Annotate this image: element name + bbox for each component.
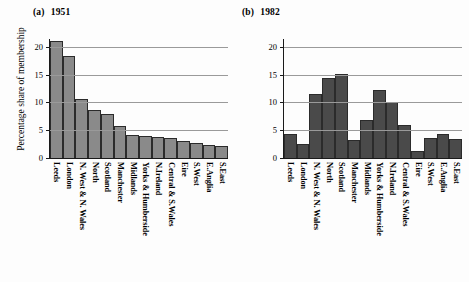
- x-axis-tick-label: Scotland: [103, 162, 112, 192]
- x-label-cell: Leeds: [284, 158, 297, 276]
- gridline-10: [284, 102, 462, 103]
- bar: [424, 138, 437, 158]
- bar: [322, 78, 335, 158]
- y-tick-10: [280, 102, 284, 103]
- x-axis-tick-label: Eire: [413, 162, 422, 177]
- bar-group-1982: [284, 39, 462, 158]
- y-tick-10: [46, 102, 50, 103]
- x-label-cell: Eire: [411, 158, 424, 276]
- figure-root: (a)1951 Percentage share of membership L…: [0, 0, 469, 282]
- x-axis-tick-label: E.Anglia: [438, 162, 447, 192]
- bar: [437, 134, 450, 158]
- bar: [190, 143, 203, 158]
- gridline-5: [50, 130, 228, 131]
- y-tick-0: [46, 158, 50, 159]
- x-label-cell: London: [297, 158, 310, 276]
- panel-year-a: 1951: [51, 7, 71, 17]
- x-axis-tick-label: N.Ireland: [388, 162, 397, 195]
- x-axis-tick-label: London: [299, 162, 308, 189]
- y-tick-label-0: 0: [39, 153, 43, 163]
- x-axis-tick-label: Eire: [179, 162, 188, 177]
- bar: [373, 90, 386, 158]
- y-tick-15: [46, 75, 50, 76]
- y-tick-label-15: 15: [35, 70, 44, 80]
- x-label-cell: S.West: [424, 158, 437, 276]
- bar: [88, 110, 101, 158]
- y-axis-label: Percentage share of membership: [16, 14, 26, 164]
- x-label-cell: Leeds: [50, 158, 63, 276]
- x-axis-tick-label: S.West: [192, 162, 201, 186]
- x-axis-tick-label: North: [90, 162, 99, 183]
- plot-area-1951: LeedsLondonN. West & N. WalesNorthScotla…: [49, 39, 228, 159]
- x-axis-tick-label: Midlands: [362, 162, 371, 195]
- bar: [177, 141, 190, 158]
- gridline-20: [50, 47, 228, 48]
- x-axis-tick-label: N. West & N. Wales: [77, 162, 86, 230]
- panel-tag-b: (b): [242, 7, 254, 17]
- x-axis-tick-label: Yorks & Humberside: [141, 162, 150, 236]
- gridline-15: [284, 75, 462, 76]
- x-axis-labels-1951: LeedsLondonN. West & N. WalesNorthScotla…: [50, 158, 228, 276]
- x-label-cell: Eire: [177, 158, 190, 276]
- y-tick-5: [280, 130, 284, 131]
- x-axis-tick-label: S.East: [217, 162, 226, 184]
- x-label-cell: Midlands: [360, 158, 373, 276]
- bar: [360, 120, 373, 158]
- bar: [101, 114, 114, 158]
- bar: [63, 56, 76, 158]
- y-tick-label-5: 5: [273, 125, 277, 135]
- x-label-cell: Manchester: [114, 158, 127, 276]
- x-axis-tick-label: E.Anglia: [204, 162, 213, 192]
- gridline-15: [50, 75, 228, 76]
- bar: [126, 135, 139, 158]
- y-tick-0: [280, 158, 284, 159]
- x-axis-tick-label: Manchester: [349, 162, 358, 203]
- y-tick-label-5: 5: [39, 125, 43, 135]
- x-axis-tick-label: Central & S.Wales: [166, 162, 175, 226]
- y-tick-5: [46, 130, 50, 131]
- x-label-cell: Central & S.Wales: [398, 158, 411, 276]
- x-label-cell: N. West & N. Wales: [75, 158, 88, 276]
- y-tick-label-15: 15: [269, 70, 278, 80]
- x-axis-tick-label: S.East: [451, 162, 460, 184]
- x-axis-tick-label: North: [324, 162, 333, 183]
- gridline-10: [50, 102, 228, 103]
- bar: [348, 140, 361, 158]
- y-tick-label-20: 20: [269, 42, 278, 52]
- y-tick-label-10: 10: [269, 97, 278, 107]
- gridline-5: [284, 130, 462, 131]
- bar: [411, 151, 424, 158]
- bar-group-1951: [50, 39, 228, 158]
- y-tick-20: [280, 47, 284, 48]
- x-label-cell: N.Ireland: [386, 158, 399, 276]
- bar: [297, 144, 310, 158]
- bar: [215, 146, 228, 158]
- x-label-cell: North: [88, 158, 101, 276]
- chart-panel-1982: (b)1982 LeedsLondonN. West & N. WalesNor…: [234, 0, 469, 282]
- x-axis-tick-label: Midlands: [128, 162, 137, 195]
- x-axis-tick-label: London: [65, 162, 74, 189]
- x-label-cell: S.East: [449, 158, 462, 276]
- panel-title-a: (a)1951: [33, 7, 71, 17]
- bar: [164, 138, 177, 158]
- y-tick-15: [280, 75, 284, 76]
- x-label-cell: E.Anglia: [203, 158, 216, 276]
- x-axis-tick-label: N.Ireland: [154, 162, 163, 195]
- panel-title-b: (b)1982: [242, 7, 280, 17]
- x-label-cell: N.Ireland: [152, 158, 165, 276]
- x-label-cell: S.East: [215, 158, 228, 276]
- x-axis-labels-1982: LeedsLondonN. West & N. WalesNorthScotla…: [284, 158, 462, 276]
- bar: [449, 139, 462, 158]
- x-label-cell: Midlands: [126, 158, 139, 276]
- x-axis-tick-label: Manchester: [115, 162, 124, 203]
- y-tick-label-0: 0: [273, 153, 277, 163]
- x-label-cell: Manchester: [348, 158, 361, 276]
- x-label-cell: S.West: [190, 158, 203, 276]
- bar: [152, 137, 165, 158]
- x-axis-tick-label: Central & S.Wales: [400, 162, 409, 226]
- x-axis-tick-label: N. West & N. Wales: [311, 162, 320, 230]
- bar: [335, 74, 348, 158]
- bar: [75, 99, 88, 158]
- x-label-cell: E.Anglia: [437, 158, 450, 276]
- x-label-cell: London: [63, 158, 76, 276]
